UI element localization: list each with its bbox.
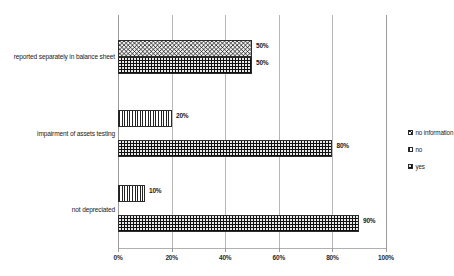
legend-swatch-yes-icon [408,164,413,169]
x-tick-label-20: 20% [165,254,177,261]
category-label-text: not depreciated [72,206,115,213]
x-tick-label-0: 0% [114,254,123,261]
bar-group2-yes [118,140,332,157]
x-tick-mark [279,248,280,252]
category-label-not-depreciated: not depreciated [0,206,115,213]
bar-group2-no [118,110,172,127]
plot-area: 50% 50% 20% 80% 10% 90% [118,15,386,248]
bar-value-label: 50% [256,59,268,66]
bar-group3-no [118,185,145,202]
bar-value-label: 50% [256,42,268,49]
x-axis-line [118,248,387,249]
legend-item-yes: yes [408,162,454,171]
x-tick-mark [172,248,173,252]
x-tick-mark [332,248,333,252]
category-label-impairment-testing: impairment of assets testing [0,130,115,137]
legend: no information no yes [408,128,454,179]
bar-value-label: 90% [363,217,375,224]
x-tick-label-60: 60% [273,254,285,261]
bar-group3-yes [118,215,359,232]
bar-value-label: 10% [149,187,161,194]
x-tick-mark [386,248,387,252]
legend-label: no [416,146,423,153]
category-label-text: impairment of assets testing [37,130,115,137]
bar-group1-no-information [118,40,252,57]
legend-item-no-information: no information [408,128,454,137]
x-tick-mark [118,248,119,252]
gridline-60 [279,15,280,248]
bar-value-label: 80% [337,142,349,149]
legend-label: yes [416,163,425,170]
x-tick-label-40: 40% [219,254,231,261]
category-label-reported-separately: reported separately in balance sheet [0,53,115,60]
legend-label: no information [416,129,454,136]
x-tick-label-100: 100% [378,254,394,261]
category-label-text: reported separately in balance sheet [14,53,115,60]
legend-swatch-no-icon [408,147,413,152]
x-tick-label-80: 80% [326,254,338,261]
x-tick-mark [225,248,226,252]
legend-item-no: no [408,145,454,154]
bar-value-label: 20% [176,112,188,119]
bar-group1-yes [118,57,252,74]
gridline-80 [332,15,333,248]
legend-swatch-no-information-icon [408,130,413,135]
gridline-100 [386,15,387,248]
